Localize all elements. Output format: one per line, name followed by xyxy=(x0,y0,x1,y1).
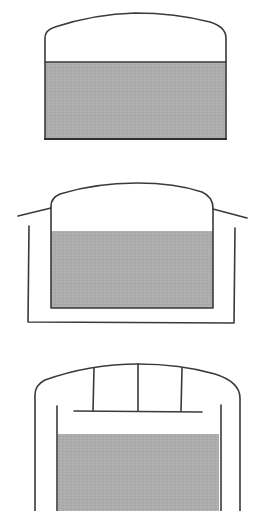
tank-3-liquid-fill xyxy=(58,434,219,511)
tank-2-roof-extension-right xyxy=(213,209,247,218)
tank-1-liquid-fill xyxy=(45,62,226,139)
tank-2 xyxy=(18,183,247,323)
tank-1 xyxy=(44,13,227,139)
tank-3 xyxy=(35,364,240,511)
tank-3-suspended-deck xyxy=(74,411,202,412)
tank-3-deck-strut-left xyxy=(93,368,94,411)
tank-diagram xyxy=(0,0,263,511)
tank-2-liquid-fill xyxy=(51,231,213,308)
tank-2-roof-extension-left xyxy=(18,208,51,216)
tank-3-deck-strut-right xyxy=(181,368,182,411)
